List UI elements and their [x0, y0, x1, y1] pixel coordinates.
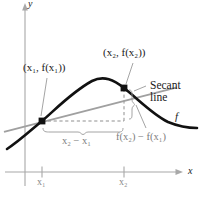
function-name-label: f — [175, 111, 178, 123]
y-axis-label: y — [28, 0, 32, 10]
x-axis-label: x — [188, 166, 192, 177]
x1-tick-label: x₁ — [37, 177, 46, 188]
secant-label: Secant line — [150, 79, 181, 103]
x2-tick-label: x₂ — [119, 177, 128, 188]
secant-label-line1: Secant — [150, 79, 181, 91]
leader-point1 — [41, 78, 47, 116]
leader-delta-y — [136, 105, 146, 128]
leader-point2 — [126, 63, 133, 84]
secant-line-figure: (x₁, f(x₁)) (x₂, f(x₂)) Secant line f x₂… — [0, 0, 202, 203]
leader-secant — [134, 86, 146, 91]
delta-x-brace — [43, 128, 123, 135]
marked-points — [39, 85, 128, 125]
point1-label: (x₁, f(x₁)) — [23, 62, 66, 74]
x-axis — [5, 169, 183, 175]
delta-y-label: f(x₂) − f(x₁) — [116, 131, 166, 142]
point2-label: (x₂, f(x₂)) — [103, 47, 146, 59]
y-axis — [22, 3, 28, 186]
delta-x-label: x₂ − x₁ — [62, 135, 91, 146]
secant-label-line2: line — [150, 91, 181, 103]
